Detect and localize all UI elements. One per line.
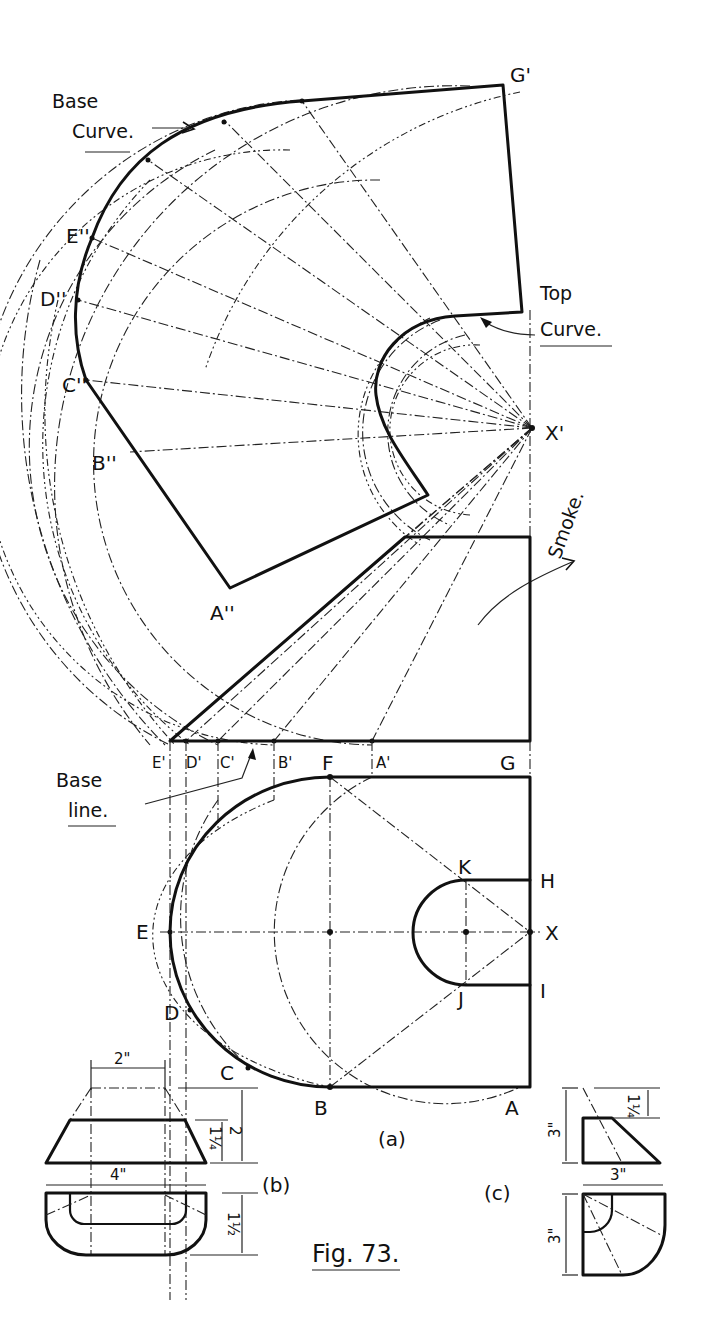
- label-j: J: [456, 987, 464, 1011]
- label-x: X: [545, 921, 559, 945]
- arrow-head-icon: [248, 748, 256, 760]
- technical-drawing: G' E'' D'' C'' B'' A'' X' Base Curve. To…: [0, 0, 706, 1339]
- label-d-prime: D': [186, 754, 202, 772]
- smoke-label: Smoke.: [543, 488, 588, 562]
- construction-arc: [55, 86, 470, 745]
- point-marker: [90, 236, 95, 241]
- development-view: G' E'' D'' C'' B'' A'' X' Base Curve. To…: [0, 63, 612, 745]
- label-c: C: [220, 1061, 234, 1085]
- label-c-dd: C'': [62, 373, 87, 397]
- arrow-head-icon: [480, 317, 492, 328]
- construction-arc: [22, 260, 165, 745]
- dim-plan-depth: 1½: [224, 1212, 242, 1236]
- label-b-prime: B': [278, 754, 292, 772]
- label-k: K: [458, 855, 472, 879]
- dim-plan-depth: 3": [546, 1228, 564, 1244]
- construction-line: [330, 777, 530, 932]
- construction-arc: [29, 150, 218, 745]
- label-a-dd: A'': [210, 601, 235, 625]
- radial-line: [302, 101, 532, 428]
- label-g-prime: G': [510, 63, 531, 87]
- dim-height-total: 3": [546, 1122, 564, 1138]
- base-curve-label-1: Base: [52, 90, 98, 112]
- construction-line: [330, 932, 530, 1087]
- label-b: B: [314, 1096, 328, 1120]
- label-d-dd: D'': [40, 287, 66, 311]
- construction-arc: [274, 777, 520, 1104]
- label-e-prime: E': [152, 754, 166, 772]
- dim-bottom-width: 4": [110, 1166, 126, 1184]
- d-point: [188, 1008, 193, 1013]
- dim-width: 3": [610, 1166, 626, 1184]
- base-line-label-2: line.: [68, 799, 108, 821]
- top-curve-label-1: Top: [539, 282, 572, 304]
- centre-point: [463, 929, 469, 935]
- construction-line: [46, 1195, 91, 1215]
- construction-line: [583, 1088, 622, 1163]
- label-i: I: [540, 979, 546, 1003]
- label-a: A: [505, 1096, 519, 1120]
- construction-line: [165, 1088, 185, 1120]
- figure-title: Fig. 73.: [312, 1240, 400, 1270]
- radial-line: [130, 428, 532, 452]
- radial-line: [372, 428, 532, 741]
- label-e-dd: E'': [66, 224, 90, 248]
- point-marker: [222, 120, 227, 125]
- x-point: [527, 929, 533, 935]
- construction-arc: [0, 150, 290, 745]
- frustum-outline: [46, 1120, 206, 1163]
- radial-line: [224, 120, 532, 428]
- top-curve-label-2: Curve.: [540, 318, 602, 340]
- view-b: 2" 2 1¼ 4" 1½ (b): [46, 1050, 290, 1255]
- radial-line: [78, 300, 532, 428]
- point-marker: [300, 99, 305, 104]
- subview-a-label: (a): [378, 1127, 406, 1151]
- dim-height-top: 1¼: [624, 1094, 642, 1119]
- x-prime-point: [529, 425, 535, 431]
- construction-arc: [94, 180, 380, 745]
- radial-line: [92, 238, 532, 428]
- radial-line: [86, 380, 532, 428]
- base-line-label-1: Base: [56, 769, 102, 791]
- frustum-plan-inner: [70, 1193, 186, 1224]
- point-marker: [146, 158, 151, 163]
- arrow-line: [485, 322, 535, 335]
- construction-line: [70, 1088, 91, 1120]
- radial-line: [218, 428, 532, 741]
- wedge-outline: [583, 1118, 660, 1163]
- construction-arc: [181, 800, 250, 1068]
- dim-height-frustum: 1¼: [206, 1126, 224, 1151]
- radial-line: [148, 160, 532, 428]
- label-b-dd: B'': [92, 451, 117, 475]
- e-point: [168, 930, 173, 935]
- construction-arc: [153, 800, 330, 1087]
- figure-caption: Fig. 73.: [312, 1240, 399, 1268]
- plan-view: F G H I K J E X D C B A (a): [136, 741, 559, 1300]
- point-marker: [76, 298, 81, 303]
- label-d: D: [164, 1001, 179, 1025]
- base-curve-label-2: Curve.: [72, 120, 134, 142]
- construction-arc: [390, 345, 480, 515]
- construction-line: [583, 1194, 663, 1236]
- dim-top-width: 2": [114, 1050, 130, 1068]
- label-h: H: [540, 869, 555, 893]
- subview-b-label: (b): [262, 1173, 290, 1197]
- label-c-prime: C': [220, 754, 235, 772]
- label-g: G: [500, 751, 516, 775]
- dim-height-total: 2: [226, 1126, 244, 1136]
- elevation-outline: [170, 537, 530, 741]
- label-f: F: [322, 751, 334, 775]
- label-x-prime: X': [545, 421, 564, 445]
- construction-arc: [205, 92, 520, 370]
- label-e: E: [136, 920, 149, 944]
- centre-point: [327, 929, 333, 935]
- subview-c-label: (c): [484, 1181, 511, 1205]
- smoke-arrow: [478, 562, 572, 625]
- label-a-prime: A': [376, 754, 390, 772]
- quarter-plan-outline: [583, 1194, 665, 1275]
- construction-line: [583, 1194, 622, 1275]
- c-point: [246, 1066, 251, 1071]
- quarter-plan-inner: [583, 1194, 612, 1232]
- b-point: [327, 1084, 333, 1090]
